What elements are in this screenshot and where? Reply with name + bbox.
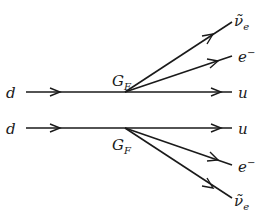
label-antineutrino-bottom: ν̃e: [234, 192, 249, 212]
label-u-top: u: [238, 84, 248, 102]
diagram-top: d u GF ν̃e e−: [6, 12, 255, 102]
arrow-nu-top: [202, 34, 213, 44]
label-d-top: d: [6, 84, 16, 102]
antineutrino-line-bottom: [125, 128, 232, 198]
feynman-diagrams: d u GF ν̃e e− d u GF e− ν̃e: [0, 0, 269, 221]
label-electron-bottom: e−: [238, 157, 255, 176]
antineutrino-line-top: [125, 22, 232, 92]
label-u-bottom: u: [238, 120, 248, 138]
label-coupling-bottom: GF: [112, 136, 132, 156]
electron-line-top: [125, 56, 232, 92]
label-electron-top: e−: [238, 47, 255, 66]
label-antineutrino-top: ν̃e: [234, 12, 249, 32]
label-d-bottom: d: [6, 120, 16, 138]
label-coupling-top: GF: [112, 72, 132, 92]
diagram-bottom: d u GF e− ν̃e: [6, 120, 255, 212]
electron-line-bottom: [125, 128, 232, 165]
